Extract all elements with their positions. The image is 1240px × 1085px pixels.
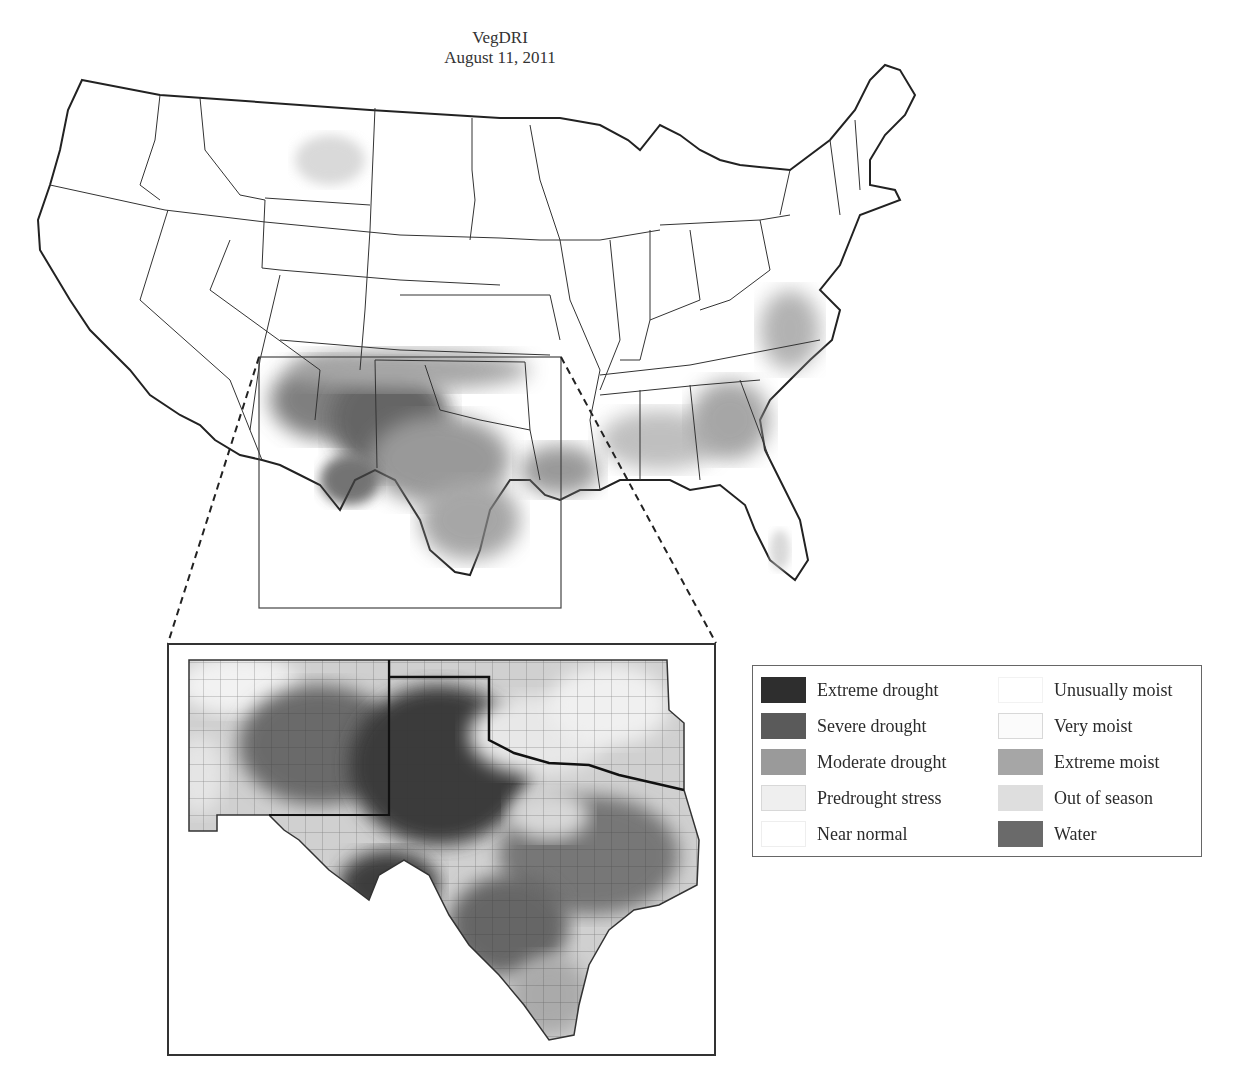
- legend-swatch: [998, 677, 1043, 703]
- legend-swatch: [761, 677, 806, 703]
- legend-label: Moderate drought: [817, 752, 946, 773]
- legend-item-moderate-drought: Moderate drought: [761, 744, 946, 780]
- legend-item-very-moist: Very moist: [998, 708, 1173, 744]
- legend-column-right: Unusually moist Very moist Extreme moist…: [998, 672, 1173, 852]
- legend-item-predrought-stress: Predrought stress: [761, 780, 946, 816]
- legend-swatch: [761, 713, 806, 739]
- legend-item-water: Water: [998, 816, 1173, 852]
- legend-swatch: [998, 713, 1043, 739]
- legend-item-extreme-moist: Extreme moist: [998, 744, 1173, 780]
- legend-label: Near normal: [817, 824, 907, 845]
- legend-swatch: [998, 785, 1043, 811]
- legend-swatch: [998, 749, 1043, 775]
- legend-label: Out of season: [1054, 788, 1153, 809]
- legend-item-out-of-season: Out of season: [998, 780, 1173, 816]
- legend-item-unusually-moist: Unusually moist: [998, 672, 1173, 708]
- legend-swatch: [761, 749, 806, 775]
- inset-map-panel: [167, 643, 716, 1056]
- legend: Extreme drought Severe drought Moderate …: [752, 665, 1202, 857]
- legend-label: Water: [1054, 824, 1097, 845]
- legend-label: Unusually moist: [1054, 680, 1173, 701]
- us-map: [0, 0, 1240, 640]
- legend-column-left: Extreme drought Severe drought Moderate …: [761, 672, 946, 852]
- legend-swatch: [761, 821, 806, 847]
- legend-label: Very moist: [1054, 716, 1133, 737]
- legend-label: Predrought stress: [817, 788, 942, 809]
- legend-swatch: [998, 821, 1043, 847]
- legend-item-near-normal: Near normal: [761, 816, 946, 852]
- legend-label: Severe drought: [817, 716, 926, 737]
- legend-item-extreme-drought: Extreme drought: [761, 672, 946, 708]
- legend-item-severe-drought: Severe drought: [761, 708, 946, 744]
- legend-label: Extreme drought: [817, 680, 938, 701]
- legend-label: Extreme moist: [1054, 752, 1159, 773]
- inset-map: [169, 645, 714, 1054]
- legend-swatch: [761, 785, 806, 811]
